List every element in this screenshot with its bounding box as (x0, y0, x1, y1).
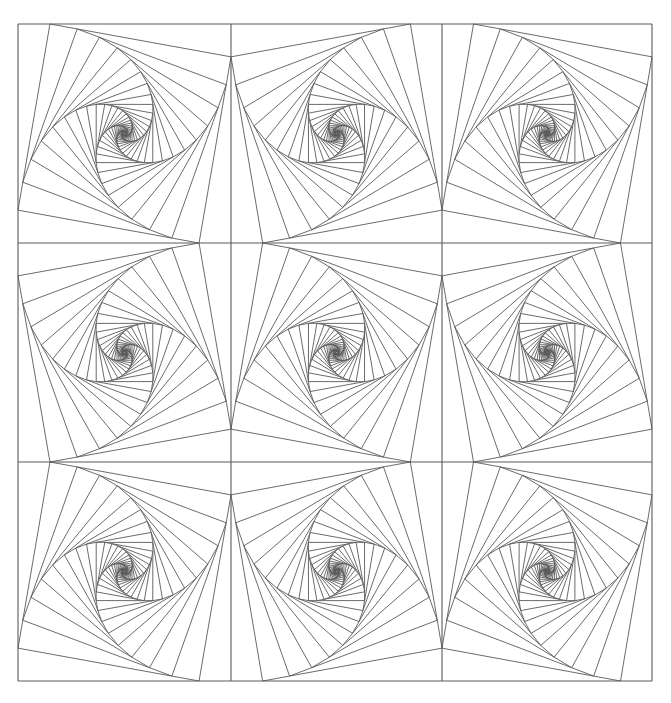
nested-square (96, 323, 153, 381)
nested-square (465, 486, 629, 657)
nested-square (23, 29, 226, 238)
nested-square (315, 330, 359, 376)
nested-square (236, 29, 438, 238)
nested-square (499, 83, 595, 183)
nested-square (465, 48, 629, 219)
spiral-cell-r3-c1 (18, 462, 231, 681)
nested-square (288, 83, 384, 183)
nested-square (299, 94, 374, 172)
nested-square (41, 267, 208, 438)
nested-square (254, 267, 419, 438)
nested-square (310, 106, 364, 162)
nested-square (546, 352, 548, 354)
nested-square (124, 133, 126, 135)
nested-square (18, 243, 231, 462)
nested-square (308, 323, 364, 381)
nested-square (124, 571, 126, 573)
spiral-cell-r2-c1 (18, 243, 231, 462)
nested-square (455, 37, 639, 229)
nested-square (510, 313, 585, 391)
nested-square (288, 521, 384, 621)
nested-square (519, 104, 575, 162)
nested-square (310, 544, 364, 600)
nested-square (124, 352, 126, 354)
nested-square (447, 467, 648, 676)
nested-square (336, 571, 338, 573)
nested-square (87, 532, 163, 610)
nested-square (41, 486, 208, 657)
nested-square (308, 323, 364, 381)
nested-square (499, 521, 595, 621)
nested-square (525, 111, 569, 157)
nested-square (519, 323, 575, 381)
nested-square (336, 352, 338, 354)
nested-square (315, 111, 359, 157)
nested-square (97, 325, 151, 381)
nested-square (520, 325, 573, 381)
spiral-squares-artwork (0, 0, 671, 703)
nested-square (308, 104, 364, 162)
nested-square (87, 94, 163, 172)
nested-square (31, 475, 218, 667)
nested-square (465, 267, 629, 438)
nested-square (97, 106, 151, 162)
nested-square (442, 462, 652, 681)
nested-square (102, 549, 146, 595)
nested-square (96, 104, 153, 162)
spiral-cell-r2-c3 (442, 243, 652, 462)
nested-square (254, 48, 419, 219)
nested-square (525, 549, 569, 595)
nested-square (546, 133, 548, 135)
nested-square (31, 256, 218, 448)
nested-square (254, 486, 419, 657)
nested-square (23, 467, 226, 676)
nested-square (231, 462, 442, 681)
nested-square (76, 83, 173, 183)
nested-square (442, 24, 652, 243)
nested-square (288, 302, 384, 402)
nested-square (442, 243, 652, 462)
nested-square (97, 544, 151, 600)
nested-square (447, 248, 648, 457)
nested-square (96, 104, 153, 162)
nested-square (102, 111, 146, 157)
spiral-cell-r3-c3 (442, 462, 652, 681)
spiral-cell-r1-c2 (231, 24, 442, 243)
nested-square (336, 133, 338, 135)
nested-square (31, 37, 218, 229)
nested-square (299, 313, 374, 391)
nested-square (102, 330, 146, 376)
nested-square (236, 248, 438, 457)
nested-square (76, 302, 173, 402)
nested-square (18, 24, 231, 243)
nested-square (23, 248, 226, 457)
nested-square (510, 94, 585, 172)
nested-square (299, 532, 374, 610)
nested-square (499, 302, 595, 402)
nested-square (87, 313, 163, 391)
nested-square (76, 521, 173, 621)
spiral-cell-r3-c2 (231, 462, 442, 681)
spiral-cell-r1-c1 (18, 24, 231, 243)
nested-square (519, 104, 575, 162)
nested-square (519, 542, 575, 600)
nested-square (244, 37, 429, 229)
nested-square (231, 243, 442, 462)
nested-square (96, 542, 153, 600)
nested-square (236, 467, 438, 676)
nested-square (546, 571, 548, 573)
nested-square (520, 106, 573, 162)
nested-square (519, 323, 575, 381)
nested-square (310, 325, 364, 381)
spiral-cell-r2-c2 (231, 243, 442, 462)
spiral-cells-group (18, 24, 652, 681)
nested-square (41, 48, 208, 219)
nested-square (455, 475, 639, 667)
nested-square (447, 29, 648, 238)
nested-square (244, 475, 429, 667)
nested-square (244, 256, 429, 448)
nested-square (315, 549, 359, 595)
nested-square (308, 104, 364, 162)
nested-square (308, 542, 364, 600)
nested-square (510, 532, 585, 610)
